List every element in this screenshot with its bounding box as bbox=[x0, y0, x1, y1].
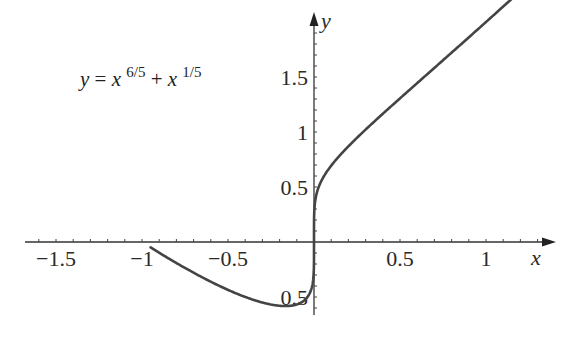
x-tick-label: 0.5 bbox=[386, 246, 414, 271]
x-tick-label: 1 bbox=[481, 246, 492, 271]
y-axis-label: y bbox=[319, 8, 331, 33]
function-plot: −1.5−1−0.50.510.50.511.5 x y y = x 6/5 +… bbox=[0, 0, 571, 341]
y-axis-arrow-icon bbox=[310, 12, 319, 26]
y-tick-label: 1 bbox=[297, 120, 308, 145]
x-tick-label: −1.5 bbox=[36, 246, 76, 271]
x-axis-arrow-icon bbox=[542, 238, 556, 247]
axes bbox=[25, 12, 556, 315]
y-tick-label: 0.5 bbox=[281, 175, 309, 200]
x-tick-label: −1 bbox=[130, 246, 153, 271]
equation-annotation: y = x 6/5 + x 1/5 bbox=[78, 58, 202, 91]
x-axis-label: x bbox=[530, 245, 541, 270]
tick-labels: −1.5−1−0.50.510.50.511.5 bbox=[36, 65, 491, 310]
y-tick-label: 1.5 bbox=[281, 65, 309, 90]
function-curve bbox=[151, 0, 521, 306]
x-tick-label: −0.5 bbox=[208, 246, 248, 271]
